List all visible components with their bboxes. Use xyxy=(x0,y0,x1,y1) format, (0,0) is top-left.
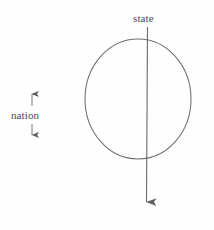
state-axis-line xyxy=(147,27,148,202)
circle-outline-icon xyxy=(85,39,191,159)
state-label: state xyxy=(133,13,154,24)
diagram-canvas: state nation xyxy=(0,0,214,230)
nation-label: nation xyxy=(11,110,39,121)
